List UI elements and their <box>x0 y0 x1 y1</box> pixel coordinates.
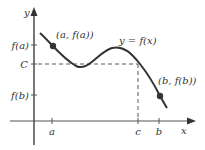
point-label-a-fa: (a, f(a)) <box>56 29 94 40</box>
tick-label-b: b <box>156 126 162 137</box>
curve-label: y = f(x) <box>118 35 157 46</box>
y-axis-label: y <box>23 7 30 18</box>
tick-label-fa: f(a) <box>11 40 30 51</box>
y-axis-arrow-icon <box>31 7 38 16</box>
ivt-diagram: y x f(a) C f(b) a c b y = f(x) (a, f(a))… <box>0 0 205 150</box>
x-axis-label: x <box>181 125 187 136</box>
tick-label-a: a <box>49 126 55 137</box>
tick-label-c: c <box>135 126 141 137</box>
x-axis-arrow-icon <box>187 118 196 125</box>
point-a-fa <box>50 43 56 49</box>
point-label-b-fb: (b, f(b)) <box>158 75 197 86</box>
tick-label-C: C <box>20 59 28 70</box>
tick-label-fb: f(b) <box>10 90 29 101</box>
point-b-fb <box>157 93 163 99</box>
